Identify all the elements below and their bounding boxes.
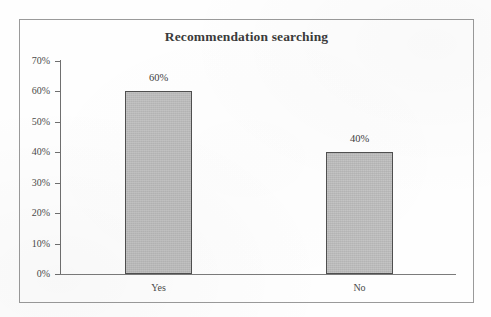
y-tick-mark <box>55 91 60 92</box>
y-axis-tick-labels: 70%60%50%40%30%20%10%0% <box>14 0 50 317</box>
y-tick-label: 50% <box>16 116 50 127</box>
category-label-no: No <box>320 282 400 293</box>
bar-yes <box>125 91 192 274</box>
y-tick-mark <box>55 152 60 153</box>
chart-title: Recommendation searching <box>19 29 474 45</box>
y-tick-mark <box>55 244 60 245</box>
y-tick-label: 30% <box>16 177 50 188</box>
y-tick-mark <box>55 61 60 62</box>
category-label-yes: Yes <box>119 282 199 293</box>
y-tick-label: 10% <box>16 238 50 249</box>
y-tick-label: 20% <box>16 207 50 218</box>
y-tick-mark <box>55 122 60 123</box>
y-tick-label: 40% <box>16 146 50 157</box>
y-tick-label: 0% <box>16 268 50 279</box>
figure-canvas: Recommendation searching 70%60%50%40%30%… <box>0 0 491 317</box>
x-axis-line <box>60 274 456 275</box>
y-axis-line <box>60 60 61 275</box>
y-tick-mark <box>55 183 60 184</box>
y-tick-label: 60% <box>16 85 50 96</box>
y-tick-mark <box>55 274 60 275</box>
y-tick-mark <box>55 213 60 214</box>
y-tick-label: 70% <box>16 55 50 66</box>
bar-value-label: 40% <box>320 133 400 144</box>
bar-no <box>326 152 393 274</box>
bar-value-label: 60% <box>119 72 199 83</box>
chart-frame <box>19 19 474 303</box>
